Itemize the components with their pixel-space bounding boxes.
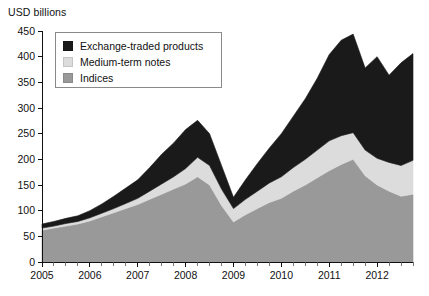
legend-item-exchange-traded-products: Exchange-traded products — [63, 38, 221, 53]
legend-swatch-medium-term-notes — [63, 57, 73, 67]
legend-label-exchange-traded-products: Exchange-traded products — [80, 40, 203, 52]
x-tick-label: 2009 — [222, 269, 246, 281]
y-tick-label: 50 — [23, 230, 35, 242]
x-tick-label: 2012 — [365, 269, 389, 281]
y-tick-label: 350 — [17, 76, 35, 88]
legend-swatch-indices — [63, 73, 73, 83]
y-tick-label: 150 — [17, 179, 35, 191]
x-tick-label: 2007 — [126, 269, 150, 281]
x-tick-label: 2005 — [30, 269, 54, 281]
legend-item-medium-term-notes: Medium-term notes — [63, 54, 221, 69]
y-tick-label: 400 — [17, 50, 35, 62]
legend-swatch-exchange-traded-products — [63, 41, 73, 51]
x-tick-label: 2008 — [174, 269, 198, 281]
legend-item-indices: Indices — [63, 70, 221, 85]
y-tick-label: 100 — [17, 204, 35, 216]
x-tick-label: 2010 — [270, 269, 294, 281]
y-tick-label: 0 — [29, 256, 35, 268]
legend-label-indices: Indices — [80, 72, 113, 84]
y-tick-labels: 050100150200250300350400450 — [17, 25, 35, 268]
y-tick-label: 250 — [17, 127, 35, 139]
x-tick-label: 2006 — [78, 269, 102, 281]
y-tick-label: 200 — [17, 153, 35, 165]
legend-label-medium-term-notes: Medium-term notes — [80, 56, 170, 68]
x-tick-labels: 20052006200720082009201020112012 — [30, 269, 389, 281]
x-tick-label: 2011 — [318, 269, 341, 281]
y-tick-label: 300 — [17, 102, 35, 114]
y-tick-label: 450 — [17, 25, 35, 37]
chart-legend: Exchange-traded products Medium-term not… — [55, 32, 222, 88]
chart-container: USD billions 050100150200250300350400450… — [0, 0, 429, 296]
